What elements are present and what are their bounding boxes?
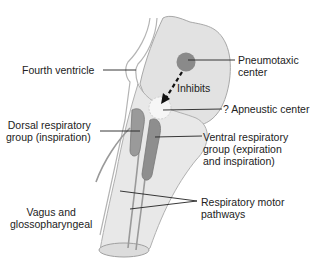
label-text: Ventral respiratory <box>203 131 288 143</box>
label-fourth-ventricle: Fourth ventricle <box>22 64 94 76</box>
apneustic-center <box>149 97 171 119</box>
label-pneumotaxic-center: Pneumotaxic center <box>238 54 299 78</box>
label-text: glossopharyngeal <box>10 218 92 230</box>
label-text: Respiratory motor <box>201 196 284 208</box>
label-text: Fourth ventricle <box>22 64 94 76</box>
label-apneustic-center: ? Apneustic center <box>223 103 309 115</box>
label-dorsal-respiratory-group: Dorsal respiratory group (inspiration) <box>6 119 91 143</box>
label-text: pathways <box>201 208 284 220</box>
pneumotaxic-center <box>177 53 196 72</box>
label-text: and inspiration) <box>203 155 288 167</box>
label-text: center <box>238 66 299 78</box>
label-ventral-respiratory-group: Ventral respiratory group (expiration an… <box>203 131 288 167</box>
label-inhibits: Inhibits <box>177 82 210 94</box>
label-respiratory-motor-pathways: Respiratory motor pathways <box>201 196 284 220</box>
label-text: group (expiration <box>203 143 288 155</box>
label-text: Dorsal respiratory <box>6 119 91 131</box>
label-text: Pneumotaxic <box>238 54 299 66</box>
label-text: ? Apneustic center <box>223 103 309 115</box>
spinal-cut-end <box>99 243 149 257</box>
label-vagus-glossopharyngeal: Vagus and glossopharyngeal <box>10 206 92 230</box>
label-text: Inhibits <box>177 82 210 94</box>
label-text: group (inspiration) <box>6 131 91 143</box>
label-text: Vagus and <box>10 206 92 218</box>
